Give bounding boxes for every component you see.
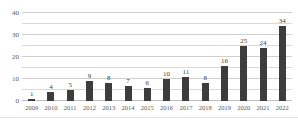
bar	[202, 83, 209, 101]
bar-slot: 9	[80, 13, 99, 101]
bar-slot: 24	[253, 13, 272, 101]
bar	[28, 99, 35, 101]
x-axis-tick-label: 2021	[253, 103, 272, 115]
bar	[240, 46, 247, 101]
plot-area: 14598761011816252434	[22, 13, 292, 101]
bar-value-label: 6	[146, 80, 150, 87]
x-axis-tick-label: 2020	[234, 103, 253, 115]
x-axis-tick-label: 2010	[41, 103, 60, 115]
bar	[163, 79, 170, 101]
bar-slot: 25	[234, 13, 253, 101]
y-axis-tick-label: 0	[0, 98, 19, 105]
bar-slot: 8	[99, 13, 118, 101]
y-axis-tick-label: 30	[0, 32, 19, 39]
x-axis-ticks: 2009201020112012201320142015201620172018…	[22, 103, 292, 115]
x-axis-tick-label: 2014	[118, 103, 137, 115]
bar-value-label: 34	[279, 18, 286, 25]
bar-slot: 10	[157, 13, 176, 101]
bar-value-label: 25	[240, 38, 247, 45]
x-axis-tick-label: 2011	[61, 103, 80, 115]
bar-value-label: 8	[107, 75, 111, 82]
bar-value-label: 7	[126, 78, 130, 85]
bar-value-label: 11	[183, 69, 190, 76]
bar-slot: 5	[61, 13, 80, 101]
bar	[221, 66, 228, 101]
bar-value-label: 16	[221, 58, 228, 65]
bar	[125, 86, 132, 101]
y-axis-tick-label: 40	[0, 10, 19, 17]
x-axis-tick-label: 2018	[196, 103, 215, 115]
x-axis-tick-label: 2015	[138, 103, 157, 115]
bar-slot: 1	[22, 13, 41, 101]
bar-slot: 6	[138, 13, 157, 101]
bar-value-label: 1	[30, 91, 34, 98]
x-axis-tick-label: 2016	[157, 103, 176, 115]
x-axis-tick-label: 2017	[176, 103, 195, 115]
bar	[182, 77, 189, 101]
x-axis-tick-label: 2013	[99, 103, 118, 115]
bar-slot: 11	[176, 13, 195, 101]
x-axis-tick-label: 2019	[215, 103, 234, 115]
bar-value-label: 4	[49, 84, 53, 91]
bar	[67, 90, 74, 101]
bar-slot: 34	[273, 13, 292, 101]
bottom-divider	[0, 117, 298, 118]
bar	[105, 83, 112, 101]
bar-value-label: 5	[68, 82, 72, 89]
bar-value-label: 24	[260, 40, 267, 47]
bar	[260, 48, 267, 101]
bars-group: 14598761011816252434	[22, 13, 292, 101]
bar-chart: 14598761011816252434 010203040 200920102…	[0, 0, 298, 122]
bar-slot: 8	[196, 13, 215, 101]
bar-slot: 7	[118, 13, 137, 101]
y-axis-tick-label: 20	[0, 54, 19, 61]
bar-value-label: 10	[163, 71, 170, 78]
bar	[279, 26, 286, 101]
bar	[144, 88, 151, 101]
x-axis-tick-label: 2022	[273, 103, 292, 115]
bar-slot: 16	[215, 13, 234, 101]
x-axis-tick-label: 2009	[22, 103, 41, 115]
y-axis-tick-label: 10	[0, 76, 19, 83]
bar-value-label: 9	[88, 73, 92, 80]
bar-value-label: 8	[203, 75, 207, 82]
bar	[86, 81, 93, 101]
bar-slot: 4	[41, 13, 60, 101]
bar	[47, 92, 54, 101]
x-axis-tick-label: 2012	[80, 103, 99, 115]
